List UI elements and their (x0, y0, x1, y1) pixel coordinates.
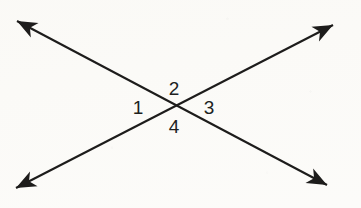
angle-label-2: 2 (169, 79, 180, 98)
geometry-figure: 1 2 3 4 (0, 0, 361, 208)
angle-label-3: 3 (204, 98, 215, 117)
arrowhead-sw (12, 172, 37, 196)
arrowhead-se (305, 168, 330, 192)
angle-label-1: 1 (133, 98, 144, 117)
arrowhead-nw (13, 14, 38, 38)
angle-label-4: 4 (169, 117, 180, 136)
intersecting-lines-diagram (0, 0, 361, 208)
line-nw-se-shaft (17, 21, 327, 185)
arrowhead-ne (311, 18, 336, 42)
